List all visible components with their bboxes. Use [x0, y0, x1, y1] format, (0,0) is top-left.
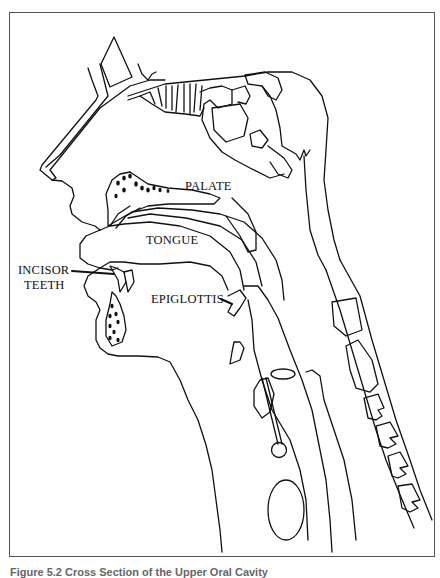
posterior-skull-outline — [245, 72, 340, 270]
larynx-structures — [230, 342, 356, 540]
sphenoid-sinus — [200, 72, 310, 178]
vertebra-c2 — [332, 298, 362, 336]
mandible-bone-dots — [108, 304, 119, 342]
vertebra-c6 — [388, 452, 408, 478]
palate-bone-dots — [114, 174, 169, 199]
label-epiglottis: EPIGLOTTIS — [151, 292, 224, 306]
cervical-spine — [326, 260, 432, 528]
label-incisor-line2: TEETH — [24, 278, 65, 292]
vertebra-c5 — [376, 422, 398, 448]
figure-caption: Figure 5.2 Cross Section of the Upper Or… — [10, 566, 268, 578]
epiglottis — [228, 286, 332, 552]
label-tongue: TONGUE — [146, 233, 198, 247]
incisor-pointer — [72, 271, 114, 274]
incisor-teeth — [106, 266, 134, 346]
label-incisor-line1: INCISOR — [18, 263, 69, 277]
nasal-bone — [40, 37, 165, 180]
label-palate: PALATE — [185, 179, 232, 193]
